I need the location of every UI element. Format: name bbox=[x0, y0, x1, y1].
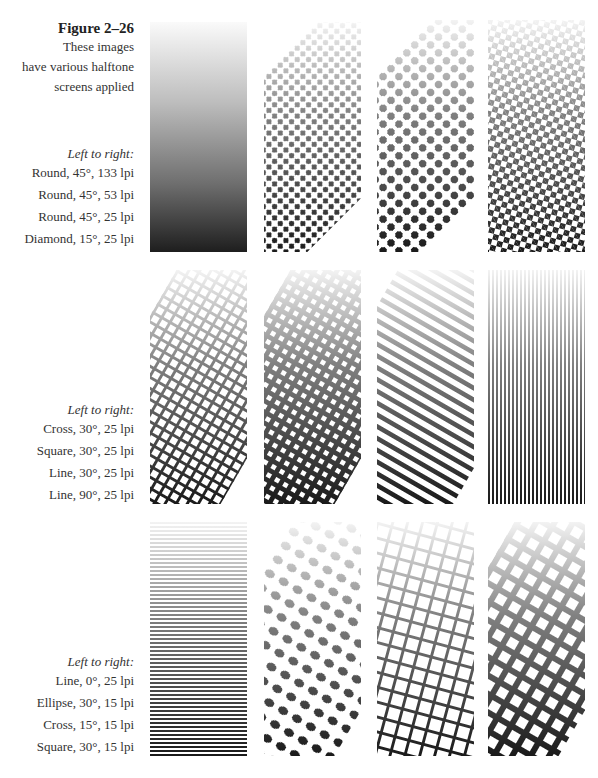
screen-spec: Square, 30°, 15 lpi bbox=[37, 736, 134, 758]
halftone-panel-round-53 bbox=[264, 22, 361, 252]
left-to-right-heading: Left to right: bbox=[24, 146, 134, 162]
figure-title: Figure 2–26 bbox=[22, 20, 134, 37]
screen-spec: Ellipse, 30°, 15 lpi bbox=[37, 692, 134, 714]
halftone-panel-round-133 bbox=[150, 22, 247, 252]
screen-spec: Cross, 15°, 15 lpi bbox=[37, 714, 134, 736]
halftone-panel-cross-30 bbox=[150, 270, 247, 504]
figure-caption: Figure 2–26 These images have various ha… bbox=[22, 20, 134, 97]
row-3-labels: Left to right: Line, 0°, 25 lpi Ellipse,… bbox=[37, 654, 134, 758]
screen-spec: Round, 45°, 53 lpi bbox=[24, 184, 134, 206]
halftone-panel-line-0 bbox=[150, 522, 247, 756]
screen-spec: Square, 30°, 25 lpi bbox=[37, 440, 134, 462]
screen-spec: Line, 0°, 25 lpi bbox=[37, 670, 134, 692]
halftone-panel-ellipse-30 bbox=[264, 522, 361, 756]
screen-spec: Diamond, 15°, 25 lpi bbox=[24, 228, 134, 250]
left-to-right-heading: Left to right: bbox=[37, 654, 134, 670]
halftone-panel-diamond-25 bbox=[488, 20, 585, 252]
halftone-panel-cross-15 bbox=[377, 522, 474, 756]
halftone-panel-line-90 bbox=[488, 270, 585, 504]
halftone-panel-line-30 bbox=[377, 270, 474, 504]
left-to-right-heading: Left to right: bbox=[37, 402, 134, 418]
figure-description-line: These images bbox=[22, 37, 134, 57]
halftone-panel-square-30 bbox=[264, 270, 361, 504]
screen-spec: Round, 45°, 25 lpi bbox=[24, 206, 134, 228]
screen-spec: Cross, 30°, 25 lpi bbox=[37, 418, 134, 440]
row-1-labels: Left to right: Round, 45°, 133 lpi Round… bbox=[24, 146, 134, 250]
screen-spec: Round, 45°, 133 lpi bbox=[24, 162, 134, 184]
screen-spec: Line, 90°, 25 lpi bbox=[37, 484, 134, 506]
figure-description-line: have various halftone bbox=[22, 57, 134, 77]
halftone-panel-square-15 bbox=[488, 522, 585, 756]
figure-description-line: screens applied bbox=[22, 77, 134, 97]
halftone-panel-round-25 bbox=[377, 20, 474, 252]
screen-spec: Line, 30°, 25 lpi bbox=[37, 462, 134, 484]
row-2-labels: Left to right: Cross, 30°, 25 lpi Square… bbox=[37, 402, 134, 506]
